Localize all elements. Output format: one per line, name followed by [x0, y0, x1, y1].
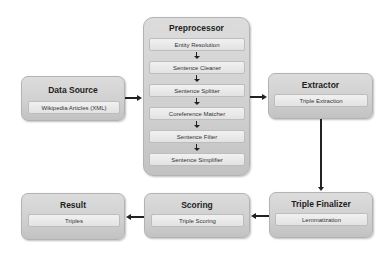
extractor-title: Extractor — [269, 80, 372, 90]
triple-finalizer-box: Triple Finalizer Lemmatization — [269, 192, 373, 238]
preprocessor-box: Preprocessor Entity Resolution Sentence … — [143, 17, 250, 176]
arrow-left-icon — [251, 213, 256, 219]
arrow-down-icon — [194, 98, 200, 105]
arrow-scoring-to-result — [131, 216, 144, 218]
data-source-item: Wikipedia Articles (XML) — [28, 101, 120, 114]
triple-finalizer-title: Triple Finalizer — [270, 199, 372, 209]
preprocessor-step-sentence-filter: Sentence Filter — [149, 130, 245, 143]
scoring-item: Triple Scoring — [151, 214, 244, 227]
extractor-item: Triple Extraction — [274, 94, 368, 107]
preprocessor-step-sentence-splitter: Sentence Splitter — [149, 84, 245, 97]
preprocessor-step-sentence-cleaner: Sentence Cleaner — [149, 61, 245, 74]
extractor-box: Extractor Triple Extraction — [268, 73, 373, 119]
scoring-box: Scoring Triple Scoring — [144, 193, 250, 238]
result-item: Triples — [28, 214, 120, 227]
arrow-down-icon — [318, 187, 324, 191]
result-box: Result Triples — [21, 193, 125, 240]
arrow-down-icon — [194, 121, 200, 128]
triple-finalizer-item: Lemmatization — [275, 213, 368, 226]
result-title: Result — [22, 200, 124, 210]
arrow-down-icon — [194, 52, 200, 59]
preprocessor-step-sentence-simplifier: Sentence Simplifier — [149, 153, 245, 166]
arrow-triple-finalizer-to-scoring — [256, 215, 269, 217]
arrow-extractor-to-triple-finalizer — [320, 119, 322, 188]
data-source-box: Data Source Wikipedia Articles (XML) — [21, 76, 125, 121]
arrow-right-icon — [262, 94, 267, 100]
data-source-title: Data Source — [22, 85, 124, 95]
preprocessor-title: Preprocessor — [144, 23, 249, 33]
preprocessor-step-entity-resolution: Entity Resolution — [149, 38, 245, 51]
arrow-down-icon — [194, 144, 200, 151]
arrow-left-icon — [126, 214, 131, 220]
arrow-down-icon — [194, 75, 200, 82]
scoring-title: Scoring — [145, 200, 249, 210]
arrow-right-icon — [137, 95, 142, 101]
preprocessor-step-coreference-matcher: Coreference Matcher — [149, 107, 245, 120]
